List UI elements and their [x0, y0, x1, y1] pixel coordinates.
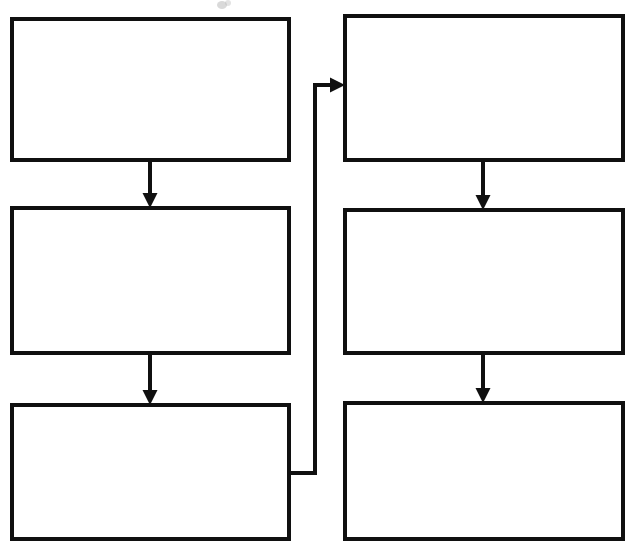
flowchart-canvas: [0, 0, 638, 548]
edge-right2-right3: [476, 353, 491, 403]
node-right-2[interactable]: [345, 210, 623, 353]
node-right-1[interactable]: [345, 16, 623, 160]
edge-right1-right2-arrowhead: [476, 195, 491, 210]
edge-left2-left3-arrowhead: [143, 390, 158, 405]
edge-right2-right3-arrowhead: [476, 388, 491, 403]
flowchart-svg: [0, 0, 638, 548]
node-left-1[interactable]: [12, 19, 289, 160]
edge-left3-right1: [289, 78, 345, 474]
edge-right1-right2: [476, 160, 491, 210]
node-left-1-shape[interactable]: [12, 19, 289, 160]
node-right-2-shape[interactable]: [345, 210, 623, 353]
edge-left3-right1-path: [289, 85, 331, 473]
node-right-3[interactable]: [345, 403, 623, 539]
edge-left1-left2: [143, 160, 158, 208]
node-left-3-shape[interactable]: [12, 405, 289, 539]
node-left-2[interactable]: [12, 208, 289, 353]
node-right-1-shape[interactable]: [345, 16, 623, 160]
edge-left1-left2-arrowhead: [143, 193, 158, 208]
edge-left2-left3: [143, 353, 158, 405]
node-right-3-shape[interactable]: [345, 403, 623, 539]
node-left-3[interactable]: [12, 405, 289, 539]
edge-left3-right1-arrowhead: [330, 78, 345, 93]
node-left-2-shape[interactable]: [12, 208, 289, 353]
